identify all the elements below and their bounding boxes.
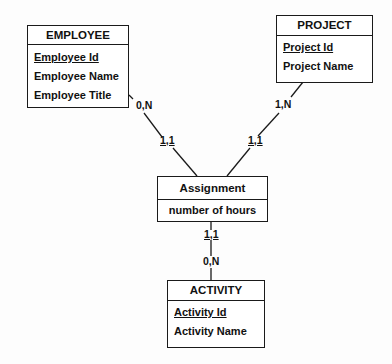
attribute: Project Name (277, 57, 372, 76)
attribute-primary-key: Project Id (277, 38, 372, 57)
cardinality-assignment-project-side: 1,1 (248, 134, 263, 146)
project-line-a (291, 82, 303, 97)
entity-project[interactable]: PROJECT Project Id Project Name (276, 15, 373, 83)
cardinality-activity-side: 0,N (203, 255, 219, 267)
employee-line-c (173, 148, 197, 176)
cardinality-assignment-employee-side: 1,1 (160, 134, 175, 146)
entity-assignment[interactable]: Assignment number of hours (157, 176, 268, 222)
entity-employee[interactable]: EMPLOYEE Employee Id Employee Name Emplo… (27, 25, 129, 108)
cardinality-project-side: 1,N (275, 98, 291, 110)
entity-title: Assignment (158, 177, 267, 200)
attribute-primary-key: Employee Id (28, 48, 128, 67)
cardinality-employee-side: 0,N (136, 99, 152, 111)
project-line-b (258, 113, 279, 136)
attribute: Employee Name (28, 67, 128, 86)
attribute-primary-key: Activity Id (168, 303, 264, 322)
project-line-c (227, 148, 250, 176)
entity-title: ACTIVITY (168, 281, 264, 301)
entity-activity[interactable]: ACTIVITY Activity Id Activity Name (167, 280, 265, 348)
entity-title: EMPLOYEE (28, 26, 128, 45)
attribute: number of hours (158, 200, 267, 220)
cardinality-assignment-activity-side: 1,1 (204, 228, 219, 240)
entity-title: PROJECT (277, 16, 372, 36)
attribute: Employee Title (28, 86, 128, 105)
attribute: Activity Name (168, 322, 264, 341)
employee-line-a (129, 95, 133, 99)
